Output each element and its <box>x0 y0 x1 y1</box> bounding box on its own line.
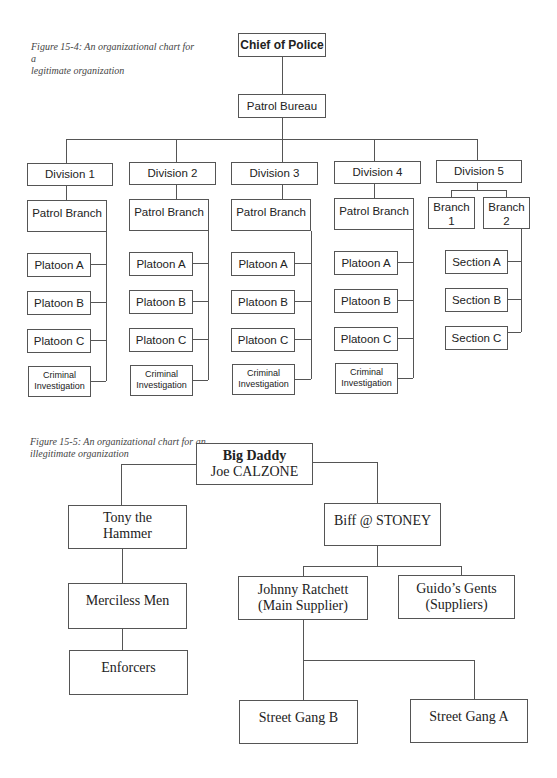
criminal-investigation-box: Criminal Investigation <box>130 365 193 396</box>
patrol-branch-4-box: Patrol Branch <box>334 198 414 230</box>
platoon-b-box: Platoon B <box>129 290 193 314</box>
connector <box>398 262 413 263</box>
connector <box>121 464 122 505</box>
connector <box>121 464 196 465</box>
connector <box>176 139 177 163</box>
platoon-b-box: Platoon B <box>27 291 91 315</box>
division-4-box: Division 4 <box>334 161 421 184</box>
patrol-branch-1-box: Patrol Branch <box>27 200 107 232</box>
criminal-investigation-box: Criminal Investigation <box>232 364 295 395</box>
enforcers-box: Enforcers <box>69 650 188 695</box>
connector <box>303 566 462 567</box>
platoon-c-box: Platoon C <box>129 328 193 352</box>
figure-15-4-caption: Figure 15-4: An organizational chart for… <box>31 41 201 77</box>
patrol-bureau-box: Patrol Bureau <box>238 94 326 118</box>
platoon-c-box: Platoon C <box>334 327 398 351</box>
platoon-b-box: Platoon B <box>231 290 295 314</box>
division-2-box: Division 2 <box>129 162 216 185</box>
connector <box>282 118 283 139</box>
connector <box>193 263 208 264</box>
street-gang-b-box: Street Gang B <box>239 700 358 744</box>
connector <box>398 378 413 379</box>
branch-2-box: Branch 2 <box>483 197 530 229</box>
connector <box>374 139 375 163</box>
guidos-gents-box: Guido’s Gents (Suppliers) <box>398 575 515 619</box>
connector <box>66 186 67 200</box>
platoon-a-box: Platoon A <box>129 252 193 276</box>
connector <box>377 462 378 503</box>
connector <box>295 339 311 340</box>
connector <box>91 381 106 382</box>
connector <box>282 185 283 199</box>
division-3-box: Division 3 <box>231 162 318 185</box>
connector <box>208 231 209 380</box>
connector <box>477 139 478 160</box>
connector <box>66 139 67 163</box>
merciless-men-box: Merciless Men <box>68 583 187 629</box>
criminal-investigation-box: Criminal Investigation <box>28 366 91 397</box>
branch-1-box: Branch 1 <box>428 197 475 229</box>
connector <box>295 301 311 302</box>
patrol-branch-2-box: Patrol Branch <box>129 199 209 231</box>
connector <box>461 566 462 575</box>
connector <box>282 57 283 94</box>
connector <box>91 340 106 341</box>
connector <box>66 139 478 140</box>
section-b-box: Section B <box>445 288 508 312</box>
connector <box>295 379 311 380</box>
section-a-box: Section A <box>445 250 508 274</box>
platoon-a-box: Platoon A <box>27 253 91 277</box>
connector <box>122 629 123 650</box>
connector <box>398 300 413 301</box>
connector <box>451 190 507 191</box>
connector <box>193 380 208 381</box>
platoon-a-box: Platoon A <box>334 251 398 275</box>
division-1-box: Division 1 <box>27 163 113 186</box>
connector <box>506 190 507 197</box>
biff-stoney-box: Biff @ STONEY <box>324 503 441 546</box>
connector <box>374 184 375 198</box>
johnny-ratchett-box: Johnny Ratchett (Main Supplier) <box>238 576 368 620</box>
connector <box>106 231 107 381</box>
section-c-box: Section C <box>445 326 508 350</box>
connector <box>508 299 521 300</box>
platoon-b-box: Platoon B <box>334 289 398 313</box>
tony-the-hammer-box: Tony the Hammer <box>68 505 187 549</box>
connector <box>521 229 522 332</box>
connector <box>474 660 475 700</box>
platoon-a-box: Platoon A <box>231 252 295 276</box>
chief-of-police-box: Chief of Police <box>238 33 326 57</box>
connector <box>303 566 304 576</box>
connector <box>377 546 378 566</box>
platoon-c-box: Platoon C <box>27 329 91 353</box>
big-daddy-box: Big Daddy Joe CALZONE <box>196 443 313 485</box>
connector <box>413 230 414 378</box>
criminal-investigation-box: Criminal Investigation <box>335 363 398 394</box>
patrol-branch-3-box: Patrol Branch <box>231 199 311 231</box>
connector <box>91 264 106 265</box>
connector <box>176 185 177 199</box>
platoon-c-box: Platoon C <box>231 328 295 352</box>
connector <box>295 263 311 264</box>
connector <box>282 139 283 163</box>
connector <box>91 302 106 303</box>
division-5-box: Division 5 <box>436 160 522 183</box>
connector <box>311 231 312 379</box>
street-gang-a-box: Street Gang A <box>410 699 528 743</box>
connector <box>313 462 377 463</box>
connector <box>122 549 123 583</box>
connector <box>451 190 452 197</box>
connector <box>398 338 413 339</box>
connector <box>508 332 521 333</box>
connector <box>303 660 474 661</box>
connector <box>508 261 521 262</box>
connector <box>193 339 208 340</box>
connector <box>193 301 208 302</box>
